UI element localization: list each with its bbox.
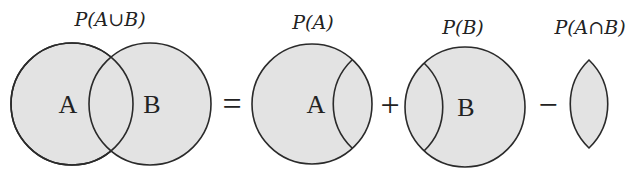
set-b-letter: B: [143, 90, 160, 119]
plus-operator: +: [380, 86, 399, 123]
pa-term: P(A) A: [252, 11, 372, 164]
pa-label: P(A): [291, 11, 333, 33]
venn-equation-diagram: P(A∪B) A B = P(A) A + P(B) B − P(A∩B): [0, 0, 635, 175]
union-term: P(A∪B) A B: [11, 8, 211, 165]
set-a-letter: A: [307, 90, 326, 119]
intersection-term: P(A∩B): [553, 16, 625, 148]
intersection-label: P(A∩B): [553, 16, 625, 38]
pb-label: P(B): [441, 16, 484, 38]
set-b-letter: B: [457, 93, 474, 122]
equals-operator: =: [222, 85, 241, 122]
intersection-lens: [570, 60, 608, 148]
union-label: P(A∪B): [73, 8, 145, 30]
pb-term: P(B) B: [405, 16, 525, 167]
minus-operator: −: [538, 86, 557, 123]
set-a-letter: A: [59, 90, 78, 119]
